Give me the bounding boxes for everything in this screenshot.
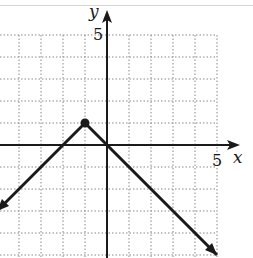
y-axis-label: y xyxy=(88,1,99,21)
x-tick-label-5: 5 xyxy=(212,151,222,170)
vertex-point xyxy=(81,119,90,128)
axes xyxy=(0,10,240,258)
x-axis-label: x xyxy=(233,147,243,167)
y-tick-label-5: 5 xyxy=(93,25,103,44)
function-graph xyxy=(0,119,217,256)
coordinate-plane: x y 5 5 xyxy=(0,0,253,258)
